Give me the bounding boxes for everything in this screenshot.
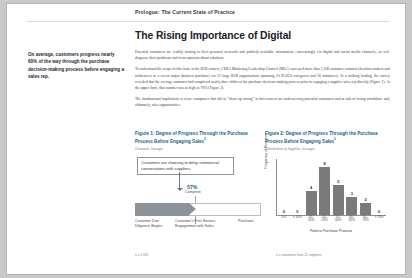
- progress-percent-label: Complete: [185, 190, 201, 194]
- header-title: Prologue: The Current State of Practice: [135, 9, 235, 15]
- figure-1: Figure 1: Degree of Progress Through the…: [135, 131, 261, 253]
- figure-2-footnote: n = customers from 22 suppliers: [276, 253, 321, 257]
- figure-1-footnote: n = 1,926: [135, 253, 148, 257]
- page-title: The Rising Importance of Digital: [135, 30, 291, 41]
- chart-bar-column: 0: [277, 159, 291, 215]
- paragraph-2-text: To understand the scope of this issue in…: [135, 66, 390, 92]
- page-header: Prologue: The Current State of Practice: [7, 4, 405, 21]
- chart-x-tick: 45–50%: [304, 216, 318, 224]
- chart-x-tick-labels: 0%< 45%45–50%50–55%55–60%60–65%65–70%> 7…: [277, 216, 386, 224]
- chart-bars: 00485320: [277, 159, 386, 215]
- chart-x-axis-label: Point in Purchase Process: [276, 229, 386, 233]
- figure-2-chart: Frequency of Response 00485320 0%< 45%45…: [265, 157, 390, 253]
- figure-2-title: Figure 2: Degree of Progress Through the…: [265, 131, 390, 145]
- figure-1-title: Figure 1: Degree of Progress Through the…: [135, 131, 261, 145]
- paragraph-2: To understand the scope of this issue in…: [135, 66, 390, 92]
- chart-x-tick: 55–60%: [332, 216, 346, 224]
- chart-bar-value: 3: [351, 191, 353, 196]
- chart-bar-column: 8: [318, 159, 332, 215]
- paragraph-3: The fundamental implication is clear: co…: [135, 96, 390, 109]
- figure-1-superscript: 2: [204, 137, 206, 141]
- chart-x-tick: 50–55%: [318, 216, 332, 224]
- stage-label-middle: Customer's First Serious Engagement with…: [175, 219, 217, 229]
- stage-label-end: Purchase: [238, 219, 262, 224]
- figure-1-callout: Customers are choosing to delay commerci…: [137, 157, 234, 176]
- callout-arrow-icon: [177, 188, 183, 191]
- chart-bar-value: 0: [378, 209, 380, 214]
- chart-bar-column: 0: [291, 159, 305, 215]
- chart-bar-value: 8: [324, 161, 326, 166]
- progress-arrowhead-icon: [189, 203, 196, 215]
- stage-label-start: Customer Due Diligence Begins: [135, 219, 169, 229]
- chart-bar-value: 0: [283, 209, 285, 214]
- body-copy: Potential customers are readily turning …: [135, 49, 390, 113]
- chart-bar-column: 4: [304, 159, 318, 215]
- chart-bar-column: 2: [359, 159, 373, 215]
- figure-2-superscript: 3: [334, 137, 336, 141]
- document-page: Prologue: The Current State of Practice …: [6, 3, 406, 275]
- chart-bar-column: 5: [332, 159, 346, 215]
- chart-bar: [306, 191, 317, 215]
- figure-1-title-text: Figure 1: Degree of Progress Through the…: [135, 131, 248, 144]
- paragraph-1-text: Potential customers are readily turning …: [135, 49, 390, 62]
- chart-bar: [333, 185, 344, 215]
- figure-2: Figure 2: Degree of Progress Through the…: [265, 131, 390, 253]
- chart-bar-value: 5: [337, 179, 339, 184]
- chart-bar: [346, 197, 357, 215]
- chart-x-tick: < 45%: [291, 216, 305, 224]
- pull-quote: On average, customers progress nearly 60…: [28, 51, 124, 81]
- figure-2-title-text: Figure 2: Degree of Progress Through the…: [265, 131, 378, 144]
- chart-x-tick: > 70%: [372, 216, 386, 224]
- chart-y-axis-label: Frequency of Response: [264, 133, 268, 169]
- chart-x-tick: 0%: [277, 216, 291, 224]
- chart-bar-value: 2: [364, 197, 366, 202]
- callout-connector-line: [179, 172, 180, 189]
- chart-x-tick: 60–65%: [345, 216, 359, 224]
- chart-plot-area: 00485320: [276, 159, 386, 215]
- chart-bar-value: 4: [310, 185, 312, 190]
- figure-1-diagram: Customers are choosing to delay commerci…: [135, 157, 261, 253]
- header-divider: [27, 21, 389, 22]
- chart-bar-value: 0: [296, 209, 298, 214]
- paragraph-3-text: The fundamental implication is clear: co…: [135, 96, 390, 109]
- chart-bar-column: 3: [345, 159, 359, 215]
- paragraph-1: Potential customers are readily turning …: [135, 49, 390, 62]
- chart-x-tick: 65–70%: [359, 216, 373, 224]
- chart-bar: [319, 167, 330, 215]
- figure-1-subtitle: Customer Average: [135, 147, 261, 151]
- chart-bar: [360, 203, 371, 215]
- figure-2-subtitle: Distribution of Supplier Averages: [265, 147, 390, 151]
- progress-arrow-bar: [135, 203, 189, 216]
- chart-bar-column: 0: [372, 159, 386, 215]
